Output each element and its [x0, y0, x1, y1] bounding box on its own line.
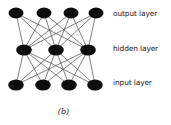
network-node — [89, 8, 104, 19]
network-node — [61, 79, 77, 90]
network-edge — [69, 50, 88, 85]
network-edge — [88, 13, 96, 50]
network-graph — [0, 0, 112, 100]
network-node — [80, 44, 96, 55]
network-node — [8, 79, 24, 90]
network-edge — [56, 13, 96, 50]
network-node — [16, 44, 32, 55]
neural-network-figure: output layer hidden layer input layer (b… — [0, 0, 171, 125]
network-node — [9, 8, 24, 19]
layer-label-input: input layer — [113, 78, 152, 87]
network-node — [64, 8, 79, 19]
figure-caption: (b) — [0, 107, 171, 116]
network-edge — [44, 13, 88, 50]
node-group — [8, 8, 103, 91]
network-node — [37, 8, 52, 19]
network-node — [35, 79, 51, 90]
network-node — [48, 44, 64, 55]
figure-caption-text: (b) — [58, 107, 69, 116]
layer-label-output: output layer — [113, 9, 157, 18]
layer-label-hidden: hidden layer — [113, 44, 158, 53]
network-node — [87, 79, 103, 90]
network-edge — [24, 50, 95, 85]
network-edge — [16, 13, 24, 50]
layer-label-list: output layer hidden layer input layer — [113, 0, 171, 100]
network-edge — [24, 13, 71, 50]
